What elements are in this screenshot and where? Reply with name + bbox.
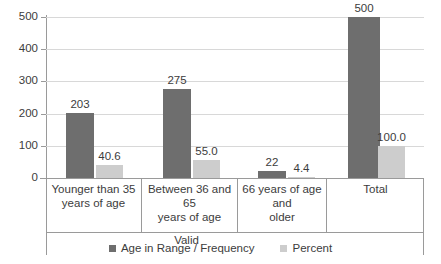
chart-legend: Age in Range / FrequencyPercent <box>0 236 441 260</box>
bar-value-label: 203 <box>58 98 102 110</box>
category-label-line: years of age <box>143 210 236 224</box>
category-label-line: Between 36 and 65 <box>143 182 236 210</box>
bar-value-label: 100.0 <box>370 131 414 143</box>
y-tick-label: 400 <box>0 43 38 54</box>
category-label-cell: Between 36 and 65years of age <box>142 178 238 233</box>
y-tick-label: 300 <box>0 75 38 86</box>
legend-swatch-icon <box>280 245 287 252</box>
y-tick-label: 200 <box>0 108 38 119</box>
legend-item[interactable]: Percent <box>280 242 332 254</box>
bar-frequency[interactable] <box>163 89 191 178</box>
bar-value-label: 500 <box>342 2 386 14</box>
legend-item[interactable]: Age in Range / Frequency <box>109 242 255 254</box>
y-tick-label: 500 <box>0 11 38 22</box>
bar-value-label: 40.6 <box>88 150 132 162</box>
category-label-cell: 66 years of age andolder <box>238 178 327 233</box>
category-label-cell: Total <box>327 178 424 233</box>
bar-percent[interactable] <box>96 165 123 178</box>
axis-right-edge <box>423 178 424 233</box>
y-tick-label: 0 <box>0 172 38 183</box>
category-label: Younger than 35years of age <box>51 182 137 210</box>
category-axis: Younger than 35years of ageBetween 36 an… <box>46 178 424 233</box>
category-label: 66 years of age andolder <box>238 182 326 224</box>
bar-frequency[interactable] <box>66 113 94 178</box>
legend-label: Percent <box>292 242 332 254</box>
category-label-line: years of age <box>52 196 136 210</box>
bar-percent[interactable] <box>193 160 220 178</box>
legend-swatch-icon <box>109 245 116 252</box>
category-label-line: older <box>239 210 325 224</box>
bar-value-label: 55.0 <box>185 145 229 157</box>
category-label-cell: Younger than 35years of age <box>46 178 142 233</box>
bar-chart: 0100200300400500 2032752250040.655.04.41… <box>0 0 441 264</box>
plot-area: 2032752250040.655.04.4100.0 <box>46 17 424 178</box>
bar-frequency[interactable] <box>348 17 380 178</box>
y-tick-label: 100 <box>0 140 38 151</box>
category-label-line: Total <box>363 182 387 196</box>
legend-label: Age in Range / Frequency <box>121 242 255 254</box>
category-label: Between 36 and 65years of age <box>142 182 237 224</box>
category-label-line: 66 years of age and <box>239 182 325 210</box>
bar-value-label: 4.4 <box>280 162 324 174</box>
category-label-line: Younger than 35 <box>52 182 136 196</box>
bar-percent[interactable] <box>378 146 405 178</box>
category-label: Total <box>362 182 388 196</box>
bar-value-label: 275 <box>155 74 199 86</box>
